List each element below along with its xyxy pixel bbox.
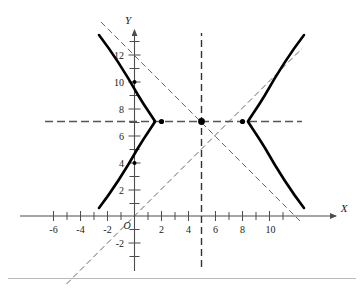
graph-canvas: X Y O -6 -4 -2 2 4 6 8 10 12 10 8 6 4 2 …: [0, 0, 364, 291]
y-intercept-lower-point: [133, 161, 137, 165]
y-tick-label-4: 4: [119, 158, 124, 169]
x-tick-label-4: 4: [186, 224, 191, 235]
vertex-right-point: [240, 119, 245, 124]
x-tick-label--6: -6: [49, 224, 57, 235]
y-axis-label: Y: [125, 14, 133, 26]
y-tick-label-8: 8: [119, 104, 124, 115]
y-tick-label-2: 2: [119, 185, 124, 196]
x-axis-label: X: [340, 202, 349, 214]
vertex-left-point: [159, 119, 164, 124]
y-tick-label-group: 12 10 8 6 4 2 -2: [114, 50, 124, 249]
asymptote-positive-slope: [67, 49, 303, 285]
y-tick-label-6: 6: [119, 131, 124, 142]
center-point: [198, 118, 205, 125]
x-tick-label--4: -4: [76, 224, 84, 235]
x-tick-label-8: 8: [240, 224, 245, 235]
y-tick-label-12: 12: [114, 50, 124, 61]
y-intercept-upper-point: [133, 80, 137, 84]
axes-group: [20, 30, 336, 271]
footer-divider: [8, 278, 356, 279]
x-tick-label-10: 10: [266, 224, 276, 235]
x-tick-label--2: -2: [103, 224, 111, 235]
hyperbola-figure: X Y O -6 -4 -2 2 4 6 8 10 12 10 8 6 4 2 …: [0, 0, 364, 291]
y-tick-label-10: 10: [114, 77, 124, 88]
x-tick-label-6: 6: [213, 224, 218, 235]
x-tick-label-group: -6 -4 -2 2 4 6 8 10: [49, 224, 275, 235]
x-tick-label-2: 2: [159, 224, 164, 235]
origin-label: O: [123, 220, 130, 231]
y-tick-label--2: -2: [116, 238, 124, 249]
